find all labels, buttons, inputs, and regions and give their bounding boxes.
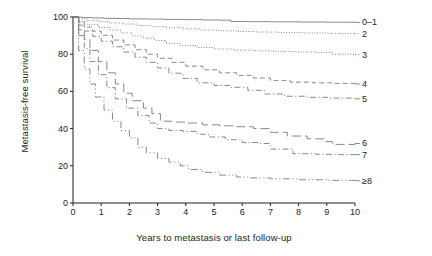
survival-curves — [73, 17, 360, 181]
survival-curve-5 — [73, 17, 355, 99]
plot-area — [0, 0, 432, 256]
legend-label-6: 6 — [362, 138, 367, 148]
legend-label-8plus: ≥8 — [362, 176, 372, 186]
survival-curve-2 — [73, 17, 355, 34]
legend-label-3: 3 — [362, 50, 367, 60]
legend-label-2: 2 — [362, 29, 367, 39]
legend-label-4: 4 — [362, 79, 367, 89]
legend-label-0-1: 0–1 — [362, 17, 377, 27]
survival-curve-3 — [73, 17, 355, 55]
survival-curve-6 — [73, 17, 355, 144]
axes — [73, 17, 355, 203]
legend-label-5: 5 — [362, 94, 367, 104]
survival-curve-0-1 — [73, 17, 355, 22]
legend-label-7: 7 — [362, 150, 367, 160]
survival-chart-figure: Metastasis-free survival Years to metast… — [0, 0, 432, 256]
